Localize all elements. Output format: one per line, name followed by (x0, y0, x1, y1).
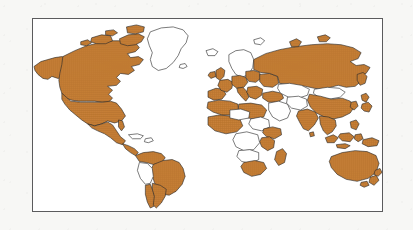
screenshot-root: Shaded / selected countries Unshaded cou… (0, 0, 413, 230)
map-frame-border (32, 18, 383, 212)
region-poland-baltics (246, 70, 261, 82)
region-sri-lanka (309, 132, 314, 137)
world-map-figure (33, 19, 382, 211)
region-ellesmere-island (126, 25, 144, 34)
